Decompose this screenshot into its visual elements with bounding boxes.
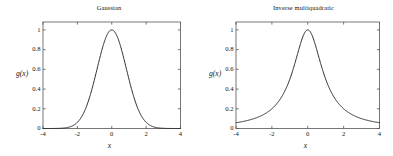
x-axis-label-inverse-multiquadratic: x (304, 141, 307, 150)
y-tick-label: 0.4 (32, 85, 40, 92)
x-tick-label: 2 (334, 130, 354, 137)
x-tick-label: -2 (67, 130, 87, 137)
x-tick-label: 2 (136, 130, 156, 137)
x-tick-label: -4 (226, 130, 246, 137)
y-tick-label: 0.2 (225, 105, 233, 112)
y-tick-label: 0.8 (32, 45, 40, 52)
x-tick-label: -4 (33, 130, 53, 137)
x-tick-label: 4 (171, 130, 191, 137)
plot-canvas-gaussian (0, 0, 196, 156)
y-axis-label-inverse-multiquadratic: g(x) (209, 69, 221, 78)
y-tick-label: 0.2 (32, 105, 40, 112)
y-tick-label: 0.6 (225, 65, 233, 72)
y-tick-label: 1 (230, 26, 233, 33)
figure-two-rbf-plots: Gaussian g(x) x 00.20.40.60.81-4-2024 In… (0, 0, 393, 156)
x-tick-label: 0 (298, 130, 318, 137)
y-tick-label: 0.4 (225, 85, 233, 92)
plot-panel-gaussian: Gaussian g(x) x 00.20.40.60.81-4-2024 (0, 0, 196, 156)
y-axis-label-gaussian: g(x) (16, 69, 28, 78)
y-tick-label: 1 (37, 26, 40, 33)
x-tick-label: 4 (370, 130, 390, 137)
y-tick-label: 0.6 (32, 65, 40, 72)
x-axis-label-gaussian: x (108, 141, 111, 150)
plot-panel-inverse-multiquadratic: Inverse multiquadratic g(x) x 00.20.40.6… (196, 0, 393, 156)
x-tick-label: 0 (102, 130, 122, 137)
y-tick-label: 0.8 (225, 45, 233, 52)
x-tick-label: -2 (262, 130, 282, 137)
